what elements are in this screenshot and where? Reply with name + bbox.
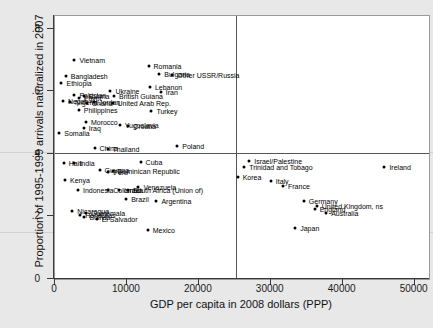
data-point	[171, 74, 174, 77]
data-point	[107, 188, 110, 191]
data-point	[155, 200, 158, 203]
y-tick-mark	[47, 28, 53, 29]
data-point	[73, 162, 76, 165]
data-point	[85, 101, 88, 104]
data-point	[248, 159, 251, 162]
data-point-label: United Arab Rep.	[118, 100, 171, 107]
data-point	[148, 86, 151, 89]
data-point-label: Bangladesh	[71, 73, 108, 80]
data-point-label: Australia	[331, 209, 358, 216]
data-point	[147, 65, 150, 68]
data-point	[58, 132, 61, 135]
data-point	[73, 58, 76, 61]
data-point-label: Ireland	[389, 163, 410, 170]
data-point-label: Mexico	[153, 226, 175, 233]
data-point	[126, 189, 129, 192]
data-point-label: Japan	[300, 225, 319, 232]
data-point-label: Romania	[154, 63, 182, 70]
data-point	[313, 208, 316, 211]
data-point	[294, 227, 297, 230]
data-point-label: Trinidad and Tobago	[249, 163, 312, 170]
x-tick-label: 20000	[184, 283, 212, 294]
data-point	[79, 213, 82, 216]
data-point	[64, 75, 67, 78]
x-tick-label: 0	[51, 283, 57, 294]
data-point	[176, 144, 179, 147]
data-point	[61, 100, 64, 103]
y-axis-line	[53, 15, 54, 279]
data-point-label: Croatia	[133, 122, 156, 129]
data-point	[281, 184, 284, 187]
data-point	[60, 82, 63, 85]
data-point-label: South Africa (Union of)	[133, 187, 203, 194]
data-point	[62, 161, 65, 164]
x-axis-title: GDP per capita in 2008 dollars (PPP)	[54, 298, 428, 310]
data-point	[64, 179, 67, 182]
data-point-label: Ghana	[92, 99, 113, 106]
x-axis-line	[53, 278, 429, 279]
data-point-label: Korea	[243, 174, 262, 181]
data-point	[302, 200, 305, 203]
data-point	[146, 228, 149, 231]
data-point	[325, 211, 328, 214]
data-point	[83, 216, 86, 219]
data-point-label: India	[79, 160, 94, 167]
data-point	[84, 121, 87, 124]
data-point	[118, 123, 121, 126]
data-point-label: Vietnam	[79, 56, 105, 63]
data-point	[383, 165, 386, 168]
data-point-label: Brazil	[131, 196, 149, 203]
data-point-label: Turkey	[156, 107, 177, 114]
data-point	[111, 169, 114, 172]
data-point	[95, 217, 98, 220]
data-point	[315, 205, 318, 208]
data-point	[69, 100, 72, 103]
horizontal-reference-line	[55, 153, 429, 154]
data-point	[71, 209, 74, 212]
data-point-label: France	[288, 182, 310, 189]
data-point	[236, 176, 239, 179]
data-point	[107, 170, 110, 173]
data-point	[111, 102, 114, 105]
data-point	[73, 94, 76, 97]
x-tick-label: 50000	[400, 283, 428, 294]
data-point	[77, 188, 80, 191]
data-point-label: Ethiopia	[66, 80, 91, 87]
data-point-label: Cuba	[146, 158, 163, 165]
y-tick-mark	[47, 153, 53, 154]
data-point	[93, 146, 96, 149]
data-point	[243, 165, 246, 168]
data-point-label: Iran	[166, 89, 178, 96]
data-point	[158, 72, 161, 75]
data-point-label: Philippines	[84, 106, 118, 113]
data-point-label: Argentina	[161, 198, 191, 205]
data-point	[139, 160, 142, 163]
data-point-label: Dominican Republic	[118, 167, 180, 174]
y-tick-mark	[47, 278, 53, 279]
x-tick-label: 10000	[112, 283, 140, 294]
y-axis-title: Proportion of 1995-1999 arrivals natural…	[33, 6, 45, 276]
data-point-label: Thailand	[113, 146, 140, 153]
chart-container: VietnamRomaniaBulgariaOther USSR/RussiaB…	[0, 0, 433, 328]
data-point-label: Poland	[182, 142, 204, 149]
plot-area: VietnamRomaniaBulgariaOther USSR/RussiaB…	[54, 15, 430, 280]
data-point-label: Other USSR/Russia	[177, 72, 239, 79]
data-point	[77, 108, 80, 111]
data-point-label: Somalia	[64, 130, 89, 137]
data-point-label: El Salvador	[102, 215, 138, 222]
data-point	[118, 189, 121, 192]
data-point-label: Kenya	[70, 177, 90, 184]
data-point	[269, 180, 272, 183]
data-point	[150, 109, 153, 112]
vertical-reference-line	[236, 16, 237, 279]
data-point	[106, 148, 109, 151]
data-point	[127, 124, 130, 127]
data-point	[125, 198, 128, 201]
data-point	[98, 169, 101, 172]
x-tick-label: 40000	[328, 283, 356, 294]
y-tick-mark	[47, 90, 53, 91]
x-tick-label: 30000	[256, 283, 284, 294]
y-tick-mark	[47, 215, 53, 216]
data-point-label: Iraq	[89, 125, 101, 132]
